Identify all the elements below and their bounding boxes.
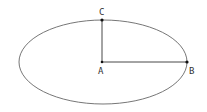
label-a: A <box>98 66 104 76</box>
point-a <box>101 61 104 64</box>
point-b <box>185 60 188 63</box>
label-b: B <box>189 66 194 76</box>
label-c: C <box>99 7 104 17</box>
point-c <box>100 18 103 21</box>
ellipse-diagram: A B C <box>0 0 207 112</box>
